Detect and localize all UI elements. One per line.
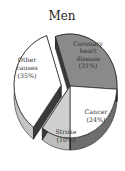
slice-label-stroke: Stroke: [55, 128, 76, 135]
slice-label-cancer: Cancer: [85, 108, 109, 115]
slice-label-cancer: (24%): [87, 116, 106, 123]
slice-label-coronary-heart-disease: disease: [76, 55, 100, 62]
pie-chart: Men Coronaryheartdisease(31%)Cancer(24%)…: [0, 0, 125, 171]
chart-title: Men: [48, 9, 75, 23]
slice-label-other-causes: (35%): [18, 72, 37, 79]
slice-label-stroke: (10%): [57, 136, 76, 143]
slice-label-other-causes: causes: [16, 64, 38, 71]
slice-label-coronary-heart-disease: heart: [79, 47, 97, 54]
slice-label-other-causes: Other: [18, 56, 37, 63]
slice-label-coronary-heart-disease: (31%): [79, 62, 98, 69]
